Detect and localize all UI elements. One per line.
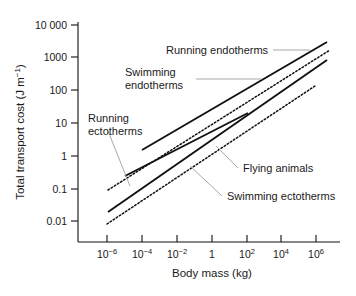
y-axis-tick-labels: 10 000 1000 100 10 1 0.1 0.01: [35, 19, 67, 227]
y-tick-label-0.01: 0.01: [47, 215, 68, 227]
x-axis-title: Body mass (kg): [172, 267, 252, 279]
y-tick-label-100: 100: [49, 84, 67, 96]
leader-flying-animals: [216, 146, 238, 168]
x-tick-label-1: 1: [209, 248, 215, 260]
series-line-swimming-endotherms: [125, 113, 248, 176]
x-tick-label-1e-4: 10−4: [132, 247, 152, 261]
annotation-running-ectotherms-line1: Running: [88, 112, 129, 124]
x-tick-label-1e6: 106: [308, 247, 324, 261]
annotation-swimming-ectotherms: Swimming ectotherms: [227, 190, 336, 202]
y-axis-ticks: [71, 25, 78, 221]
x-axis-tick-labels: 10−6 10−4 10−2 1 102 104 106: [97, 247, 324, 261]
y-axis-title: Total transport cost (J m−1): [13, 64, 27, 200]
annotation-running-ectotherms-line2: ectotherms: [88, 125, 143, 137]
figure-container: Total transport cost (J m−1) 10 000 1000…: [0, 0, 356, 296]
y-tick-label-10: 10: [55, 117, 67, 129]
annotation-labels: Running endotherms Swimming endotherms R…: [88, 44, 336, 202]
x-tick-label-1e2: 102: [239, 247, 255, 261]
y-tick-label-1000: 1000: [44, 51, 68, 63]
x-tick-label-1e-2: 10−2: [167, 247, 187, 261]
annotation-swimming-endotherms-line1: Swimming: [125, 66, 176, 78]
leader-swimming-ectotherms: [190, 166, 222, 196]
annotation-running-endotherms: Running endotherms: [166, 44, 269, 56]
y-tick-label-10000: 10 000: [35, 19, 67, 31]
x-axis-ticks: [107, 235, 316, 242]
annotation-swimming-endotherms-line2: endotherms: [125, 79, 184, 91]
annotation-flying-animals: Flying animals: [243, 162, 314, 174]
series-line-swimming-ectotherms: [107, 86, 315, 224]
y-tick-label-0.1: 0.1: [52, 183, 67, 195]
transport-cost-log-log-chart: 10 000 1000 100 10 1 0.1 0.01 10−6 10−4 …: [0, 0, 356, 296]
y-tick-label-1: 1: [61, 150, 67, 162]
x-tick-label-1e-6: 10−6: [97, 247, 117, 261]
leader-running-ectotherms: [108, 131, 130, 186]
x-tick-label-1e4: 104: [273, 247, 289, 261]
